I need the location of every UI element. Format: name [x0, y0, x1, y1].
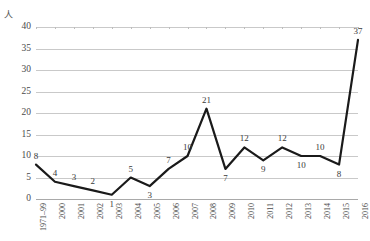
- y-axis-tick-label: 30: [22, 65, 32, 75]
- data-point-label: 10: [183, 143, 192, 152]
- y-axis-tick-label: 25: [22, 87, 32, 97]
- data-point-label: 21: [202, 95, 211, 104]
- y-axis-tick-label: 20: [22, 108, 32, 118]
- data-point-label: 10: [297, 161, 306, 170]
- x-axis-tick-label: 2001: [78, 203, 86, 219]
- data-point-label: 8: [337, 169, 342, 178]
- data-point-label: 10: [316, 143, 325, 152]
- x-axis-tick-label: 2016: [362, 203, 370, 219]
- x-axis-tick-label: 2015: [343, 203, 351, 219]
- y-axis-tick-label: 15: [22, 130, 32, 140]
- data-point-label: 8: [34, 151, 39, 160]
- data-point-label: 1: [110, 199, 115, 208]
- data-point-label: 3: [72, 173, 77, 182]
- x-axis-tick-label: 2012: [286, 203, 294, 219]
- data-point-label: 2: [91, 177, 96, 186]
- x-axis-tick-label: 2002: [97, 203, 105, 219]
- series-line: [36, 27, 358, 199]
- x-axis-tick-label: 2014: [324, 203, 332, 219]
- data-point-label: 3: [147, 191, 152, 200]
- x-axis-tick-label: 2011: [267, 203, 275, 219]
- x-axis-tick-label: 2005: [154, 203, 162, 219]
- data-point-label: 7: [223, 173, 228, 182]
- x-axis-tick-label: 2003: [116, 203, 124, 219]
- x-axis-tick-label: 2008: [210, 203, 218, 219]
- x-axis-tick-label: 2013: [305, 203, 313, 219]
- data-point-label: 9: [261, 165, 266, 174]
- data-point-label: 12: [240, 134, 249, 143]
- x-axis-tick-label: 2000: [59, 203, 67, 219]
- clipped-header-strip: [0, 0, 370, 7]
- y-axis-tick-label: 5: [26, 173, 31, 183]
- line-chart: 人 0510152025303540 1971–9920002001200220…: [0, 0, 370, 241]
- x-axis-tick-label: 1971–99: [40, 203, 48, 231]
- data-point-label: 5: [128, 164, 133, 173]
- x-axis-tick-label: 2010: [248, 203, 256, 219]
- data-point-label: 7: [166, 155, 171, 164]
- x-axis-line: [36, 199, 358, 200]
- y-axis-tick-label: 10: [22, 151, 32, 161]
- y-axis-tick-label: 40: [22, 22, 32, 32]
- x-axis-tick-label: 2009: [229, 203, 237, 219]
- series-polyline: [36, 40, 358, 195]
- data-point-label: 4: [53, 168, 58, 177]
- y-axis-tick-label: 0: [26, 194, 31, 204]
- x-axis-tick-label: 2007: [192, 203, 200, 219]
- y-axis-unit-label: 人: [4, 11, 13, 20]
- plot-area: 0510152025303540 1971–992000200120022003…: [36, 27, 358, 199]
- x-axis-tick-label: 2006: [173, 203, 181, 219]
- x-axis-tick-label: 2004: [135, 203, 143, 219]
- data-point-label: 12: [278, 134, 287, 143]
- data-point-label: 37: [354, 26, 363, 35]
- y-axis-tick-label: 35: [22, 44, 32, 54]
